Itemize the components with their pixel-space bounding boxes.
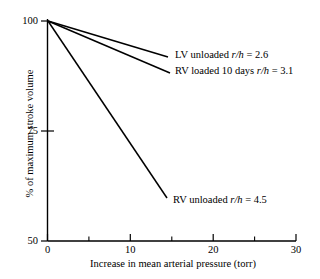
x-tick-label-10: 10 bbox=[118, 245, 142, 256]
series-label-rv-unloaded-ratio: r/h bbox=[230, 194, 242, 205]
chart-plot-area bbox=[0, 0, 320, 279]
series-label-lv-unloaded-value: = 2.6 bbox=[244, 49, 268, 60]
x-axis-title: Increase in mean arterial pressure (torr… bbox=[48, 258, 298, 269]
y-tick-label-100: 100 bbox=[12, 16, 38, 27]
series-label-lv-unloaded-ratio: r/h bbox=[232, 49, 244, 60]
series-line-lv-unloaded bbox=[48, 21, 168, 57]
x-tick-label-0: 0 bbox=[36, 245, 60, 256]
series-label-lv-unloaded: LV unloaded r/h = 2.6 bbox=[175, 50, 268, 61]
x-tick-label-30: 30 bbox=[284, 245, 308, 256]
series-label-rv-loaded-value: = 3.1 bbox=[269, 65, 293, 76]
series-label-rv-unloaded: RV unloaded r/h = 4.5 bbox=[173, 195, 267, 206]
series-label-rv-loaded: RV loaded 10 days r/h = 3.1 bbox=[175, 66, 293, 77]
x-tick-label-20: 20 bbox=[201, 245, 225, 256]
y-tick-label-50: 50 bbox=[12, 236, 38, 247]
y-axis-title: % of maximum stroke volume bbox=[24, 49, 35, 219]
chart-figure: 100 75 50 0 10 20 30 % of maximum stroke… bbox=[0, 0, 320, 279]
series-label-rv-loaded-prefix: RV loaded 10 days bbox=[175, 65, 257, 76]
series-label-lv-unloaded-prefix: LV unloaded bbox=[175, 49, 232, 60]
series-line-rv-unloaded bbox=[48, 21, 167, 198]
series-label-rv-loaded-ratio: r/h bbox=[257, 65, 269, 76]
series-label-rv-unloaded-value: = 4.5 bbox=[243, 194, 267, 205]
series-label-rv-unloaded-prefix: RV unloaded bbox=[173, 194, 230, 205]
